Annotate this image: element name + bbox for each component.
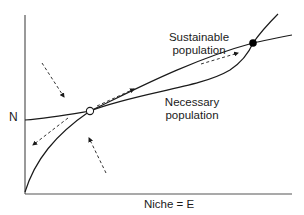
sustainable-label-line2: population: [163, 44, 235, 57]
necessary-population-label: Necessary population: [159, 96, 225, 122]
arrow-icon: [33, 118, 68, 145]
sustainable-population-label: Sustainable population: [163, 31, 235, 57]
y-axis-label: N: [9, 111, 18, 125]
arrow-icon: [42, 63, 64, 97]
sustainable-label-line1: Sustainable: [163, 31, 235, 44]
x-axis-label: Niche = E: [134, 198, 204, 211]
necessary-label-line1: Necessary: [159, 96, 225, 109]
necessary-label-line2: population: [159, 109, 225, 122]
population-niche-diagram: [0, 0, 304, 215]
necessary-population-curve: [25, 14, 278, 192]
arrow-icon: [97, 89, 134, 106]
arrow-icon: [89, 138, 106, 173]
unstable-equilibrium-open-circle-icon: [86, 107, 93, 114]
stable-equilibrium-filled-circle-icon: [249, 39, 257, 47]
